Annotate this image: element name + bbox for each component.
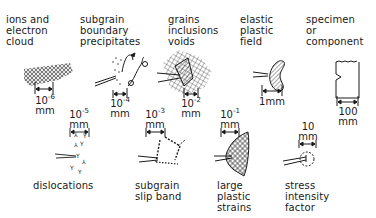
scale-unit: mm bbox=[145, 119, 164, 130]
scale-precipitates: 10-4 mm bbox=[107, 99, 133, 119]
scale-exponent: -6 bbox=[48, 93, 55, 101]
label-subgrain-boundary-precipitates: subgrain boundary precipitates bbox=[80, 14, 140, 47]
scale-slip-band: 10-3 mm bbox=[142, 110, 168, 130]
svg-text:⅄: ⅄ bbox=[81, 158, 86, 165]
label-ions-electron-cloud: ions and electron cloud bbox=[6, 14, 49, 47]
label-specimen-component: specimen or component bbox=[306, 14, 363, 47]
label-grains-inclusions-voids: grains inclusions voids bbox=[168, 14, 218, 47]
scale-base: 1mm bbox=[259, 96, 285, 107]
scale-ions: 10-6 mm bbox=[32, 96, 58, 116]
svg-text:Y: Y bbox=[79, 140, 84, 147]
ions-electron-cloud-illustration bbox=[24, 63, 73, 94]
slip-band-illustration bbox=[138, 128, 185, 164]
plastic-field-illustration bbox=[253, 61, 284, 96]
scale-dislocations: 10-5 mm bbox=[66, 110, 92, 130]
svg-text:Y: Y bbox=[82, 132, 87, 139]
svg-text:Y: Y bbox=[77, 168, 82, 175]
scale-stress-intensity: 10 mm bbox=[295, 122, 321, 142]
scale-exponent: -1 bbox=[233, 107, 240, 115]
grains-illustration bbox=[157, 50, 212, 98]
scale-unit: mm bbox=[220, 119, 239, 130]
label-elastic-plastic-field: elastic plastic field bbox=[240, 14, 273, 47]
svg-text:⅄: ⅄ bbox=[73, 131, 78, 138]
label-large-plastic-strains: large plastic strains bbox=[217, 180, 251, 213]
label-subgrain-slip-band: subgrain slip band bbox=[135, 180, 181, 202]
scale-unit: mm bbox=[181, 108, 200, 119]
svg-text:Y: Y bbox=[75, 152, 80, 159]
large-strains-illustration bbox=[214, 128, 249, 176]
scale-unit: mm bbox=[110, 108, 129, 119]
label-dislocations: dislocations bbox=[33, 180, 93, 191]
label-stress-intensity-factor: stress intensity factor bbox=[285, 180, 329, 213]
scale-specimen: 100 mm bbox=[333, 107, 363, 127]
scale-exponent: -4 bbox=[123, 96, 130, 104]
scale-unit: mm bbox=[35, 105, 54, 116]
scale-unit: mm bbox=[69, 119, 88, 130]
dislocations-illustration: ⅄Y ⅄Y Y⅄ YY bbox=[55, 128, 89, 175]
scale-exponent: -2 bbox=[194, 96, 201, 104]
precipitates-illustration bbox=[95, 53, 148, 98]
scale-unit: mm bbox=[338, 116, 357, 127]
scale-exponent: -3 bbox=[158, 107, 165, 115]
svg-text:Y: Y bbox=[69, 164, 74, 171]
scale-large-strains: 10-1 mm bbox=[217, 110, 243, 130]
scale-exponent: -5 bbox=[82, 107, 89, 115]
specimen-illustration bbox=[336, 61, 359, 106]
svg-text:⅄: ⅄ bbox=[73, 141, 78, 148]
scale-unit: mm bbox=[298, 131, 317, 142]
scale-plastic-field: 1mm bbox=[257, 97, 287, 107]
scale-grains: 10-2 mm bbox=[178, 99, 204, 119]
stress-intensity-illustration bbox=[283, 140, 316, 166]
